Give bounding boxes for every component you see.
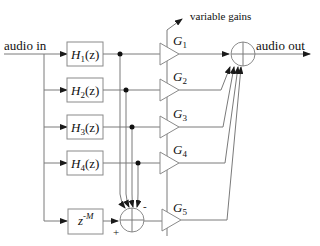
filter-h2: H2(z) bbox=[67, 78, 103, 102]
variable-gains-label: variable gains bbox=[190, 10, 251, 22]
filter-h3: H3(z) bbox=[67, 115, 103, 139]
junction-dot bbox=[130, 125, 135, 130]
difference-summer: + - bbox=[113, 200, 147, 238]
svg-text:G1: G1 bbox=[173, 33, 187, 50]
junction-dot bbox=[124, 88, 129, 93]
tap-lines bbox=[118, 52, 141, 209]
svg-text:G4: G4 bbox=[173, 142, 187, 159]
junction-dot bbox=[136, 161, 141, 166]
filter-h4: H4(z) bbox=[67, 151, 103, 175]
input-label: audio in bbox=[4, 38, 47, 53]
gain-g1: G1 bbox=[160, 33, 187, 65]
output-summer bbox=[231, 42, 255, 66]
filterbank-diagram: audio in H1(z) H2(z) H3(z) H4(z) z-M bbox=[0, 0, 320, 246]
svg-text:H2(z): H2(z) bbox=[70, 83, 99, 100]
gain-g2: G2 bbox=[160, 69, 187, 101]
plus-sign: + bbox=[113, 226, 119, 238]
delay-block: z-M bbox=[68, 209, 103, 234]
gain-g4: G4 bbox=[160, 142, 187, 174]
gain-g3: G3 bbox=[160, 106, 187, 138]
svg-text:G3: G3 bbox=[173, 106, 187, 123]
junction-dot bbox=[118, 52, 123, 57]
svg-text:G2: G2 bbox=[173, 69, 187, 86]
svg-text:H3(z): H3(z) bbox=[70, 120, 99, 137]
svg-text:H4(z): H4(z) bbox=[70, 156, 99, 173]
svg-text:G5: G5 bbox=[173, 200, 187, 217]
input-distribution-lines bbox=[4, 54, 67, 221]
minus-sign: - bbox=[143, 200, 147, 212]
gain-output-lines bbox=[179, 54, 241, 220]
output-label: audio out bbox=[256, 38, 305, 53]
svg-text:H1(z): H1(z) bbox=[70, 47, 99, 64]
filter-h1: H1(z) bbox=[67, 42, 103, 66]
gain-g5: G5 bbox=[162, 200, 187, 231]
